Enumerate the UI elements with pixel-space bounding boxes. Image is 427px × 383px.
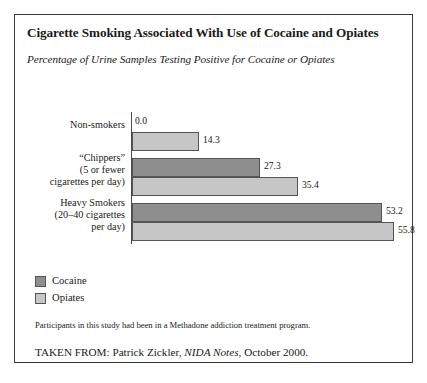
bar-opiates[interactable] — [132, 222, 394, 241]
source-publication: NIDA Notes — [184, 346, 238, 358]
source-suffix: , October 2000. — [239, 346, 309, 358]
category-label: Non-smokers — [27, 119, 125, 131]
bar-cocaine[interactable] — [132, 158, 260, 177]
category-label-line: (5 or fewer — [27, 164, 125, 176]
category-label-line: “Chippers” — [27, 152, 125, 164]
bar-value-cocaine: 0.0 — [135, 115, 147, 126]
bar-group: Heavy Smokers (20–40 cigarettes per day)… — [27, 203, 402, 243]
legend-label-opiates: Opiates — [52, 293, 84, 304]
category-label-line: per day) — [27, 221, 125, 233]
bar-value-cocaine: 27.3 — [264, 160, 281, 171]
category-label-line: Heavy Smokers — [27, 197, 125, 209]
chart-footnote: Participants in this study had been in a… — [35, 320, 395, 331]
legend-swatch-cocaine-icon — [35, 276, 46, 287]
legend-item-cocaine[interactable]: Cocaine — [35, 273, 87, 290]
category-label: Heavy Smokers (20–40 cigarettes per day) — [27, 197, 125, 233]
chart-subtitle: Percentage of Urine Samples Testing Posi… — [27, 53, 400, 66]
bar-group: Non-smokers 0.0 14.3 — [27, 113, 402, 153]
bar-value-opiates: 55.8 — [398, 224, 415, 235]
chart-legend: Cocaine Opiates — [35, 273, 87, 307]
bar-cocaine[interactable] — [132, 203, 382, 222]
legend-label-cocaine: Cocaine — [52, 276, 87, 287]
legend-item-opiates[interactable]: Opiates — [35, 290, 87, 307]
bar-value-opiates: 35.4 — [302, 179, 319, 190]
category-label: “Chippers” (5 or fewer cigarettes per da… — [27, 152, 125, 188]
bar-opiates[interactable] — [132, 132, 199, 151]
bar-group: “Chippers” (5 or fewer cigarettes per da… — [27, 158, 402, 198]
plot-area: Non-smokers 0.0 14.3 “Chippers” (5 or fe… — [27, 99, 402, 247]
bar-value-opiates: 14.3 — [203, 134, 220, 145]
category-label-line: (20–40 cigarettes — [27, 209, 125, 221]
source-prefix: TAKEN FROM: Patrick Zickler, — [35, 346, 184, 358]
legend-swatch-opiates-icon — [35, 293, 46, 304]
category-label-line: Non-smokers — [27, 119, 125, 131]
category-label-line: cigarettes per day) — [27, 176, 125, 188]
source-attribution: TAKEN FROM: Patrick Zickler, NIDA Notes,… — [35, 346, 403, 359]
chart-title: Cigarette Smoking Associated With Use of… — [27, 25, 379, 41]
bar-value-cocaine: 53.2 — [386, 205, 403, 216]
figure-frame: Cigarette Smoking Associated With Use of… — [14, 14, 413, 363]
bar-opiates[interactable] — [132, 177, 298, 196]
